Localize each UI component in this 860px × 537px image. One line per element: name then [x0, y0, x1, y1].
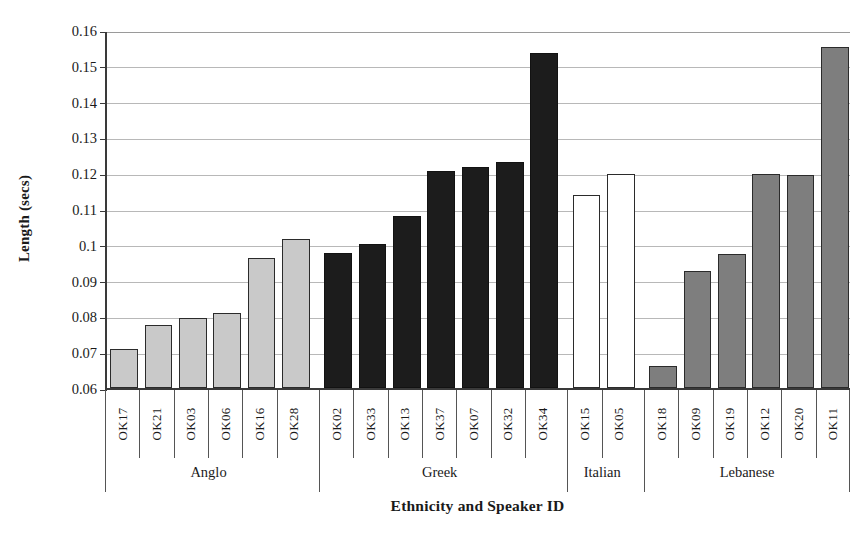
speaker-id-cell: OK33 [353, 390, 387, 458]
ethnicity-label: Lebanese [645, 464, 849, 481]
bar-OK32 [496, 162, 523, 388]
speaker-id-cell: OK09 [678, 390, 712, 458]
speaker-id-cell: OK07 [456, 390, 490, 458]
bar-OK13 [393, 216, 420, 388]
y-axis-tick-label: 0.16 [37, 24, 97, 39]
bar-OK21 [145, 325, 172, 388]
bar-OK20 [787, 175, 814, 388]
bar-OK07 [462, 167, 489, 388]
ethnicity-band: AngloGreekItalianLebanese [105, 458, 850, 492]
ethnicity-cell-anglo: Anglo [105, 458, 311, 492]
y-axis-tick-label: 0.15 [37, 60, 97, 75]
y-axis-tick [100, 246, 107, 247]
bar-OK12 [752, 174, 779, 388]
bar-OK34 [530, 53, 557, 388]
ethnicity-cell-lebanese: Lebanese [644, 458, 850, 492]
speaker-id-label: OK28 [286, 408, 302, 441]
y-axis-tick [100, 139, 107, 140]
bar-series [107, 32, 850, 388]
y-axis-tick-label: 0.09 [37, 275, 97, 290]
speaker-id-band: OK17OK21OK03OK06OK16OK28OK02OK33OK13OK37… [105, 390, 850, 458]
speaker-id-label: OK34 [535, 408, 551, 441]
bar-OK18 [649, 366, 676, 388]
y-axis-tick-label: 0.07 [37, 346, 97, 361]
bar-OK15 [573, 195, 600, 388]
ethnicity-label: Italian [568, 464, 636, 481]
speaker-id-label: OK12 [757, 408, 773, 441]
bar-OK19 [718, 254, 745, 388]
bar-OK02 [324, 253, 351, 388]
speaker-id-label: OK37 [432, 408, 448, 441]
bar-OK06 [213, 313, 240, 388]
speaker-id-cell: OK17 [105, 390, 139, 458]
y-axis-tick-label: 0.1 [37, 239, 97, 254]
ethnicity-cell-greek: Greek [319, 458, 559, 492]
y-axis-tick [100, 175, 107, 176]
y-axis-tick-label: 0.06 [37, 382, 97, 397]
speaker-id-label: OK19 [722, 408, 738, 441]
speaker-id-cell: OK18 [644, 390, 678, 458]
speaker-id-label: OK21 [149, 408, 165, 441]
speaker-id-cell: OK11 [816, 390, 850, 458]
y-axis-tick-label: 0.12 [37, 167, 97, 182]
speaker-id-cell: OK20 [781, 390, 815, 458]
bar-chart: Length (secs) 0.160.150.140.130.120.110.… [0, 0, 860, 537]
y-axis-tick [100, 32, 107, 33]
ethnicity-label: Anglo [106, 464, 311, 481]
speaker-id-cell: OK12 [747, 390, 781, 458]
speaker-id-label: OK07 [466, 408, 482, 441]
speaker-id-label: OK16 [252, 408, 268, 441]
bar-OK03 [179, 318, 206, 388]
speaker-id-cell: OK02 [319, 390, 353, 458]
y-axis-tick-label: 0.08 [37, 310, 97, 325]
bar-OK17 [110, 349, 137, 388]
y-axis-tick-label: 0.11 [37, 203, 97, 218]
speaker-id-cell: OK32 [491, 390, 525, 458]
x-axis-title: Ethnicity and Speaker ID [105, 497, 850, 515]
speaker-id-label: OK33 [363, 408, 379, 441]
bar-OK37 [427, 171, 454, 388]
speaker-id-label: OK05 [611, 408, 627, 441]
speaker-id-cell: OK34 [525, 390, 559, 458]
bar-OK09 [684, 271, 711, 388]
bar-OK11 [821, 47, 848, 388]
y-axis-tick [100, 318, 107, 319]
ethnicity-label: Greek [320, 464, 559, 481]
bar-OK16 [248, 258, 275, 388]
speaker-id-label: OK09 [688, 408, 704, 441]
y-axis-tick-label: 0.14 [37, 96, 97, 111]
y-axis-tick [100, 282, 107, 283]
speaker-id-label: OK18 [654, 408, 670, 441]
ethnicity-cell-italian: Italian [567, 458, 636, 492]
speaker-id-cell: OK03 [174, 390, 208, 458]
speaker-id-cell: OK19 [713, 390, 747, 458]
bar-OK33 [359, 244, 386, 388]
speaker-id-cell: OK16 [242, 390, 276, 458]
speaker-id-cell: OK13 [388, 390, 422, 458]
y-axis-tick [100, 67, 107, 68]
speaker-id-cell: OK05 [602, 390, 636, 458]
speaker-id-label: OK06 [218, 408, 234, 441]
y-axis-tick [100, 211, 107, 212]
speaker-id-label: OK20 [791, 408, 807, 441]
speaker-id-label: OK32 [500, 408, 516, 441]
plot-area [105, 32, 850, 390]
y-axis-title: Length (secs) [16, 139, 33, 299]
speaker-id-label: OK03 [183, 408, 199, 441]
speaker-id-cell: OK06 [208, 390, 242, 458]
speaker-id-label: OK13 [397, 408, 413, 441]
y-axis-tick [100, 103, 107, 104]
bar-OK05 [607, 174, 634, 388]
speaker-id-cell: OK15 [567, 390, 601, 458]
speaker-id-label: OK02 [329, 408, 345, 441]
speaker-id-label: OK17 [115, 408, 131, 441]
y-axis-tick-label: 0.13 [37, 131, 97, 146]
speaker-id-label: OK15 [577, 408, 593, 441]
bar-OK28 [282, 239, 309, 388]
y-axis-tick [100, 354, 107, 355]
speaker-id-label: OK11 [825, 408, 841, 441]
speaker-id-cell: OK21 [139, 390, 173, 458]
speaker-id-cell: OK37 [422, 390, 456, 458]
speaker-id-cell: OK28 [277, 390, 311, 458]
